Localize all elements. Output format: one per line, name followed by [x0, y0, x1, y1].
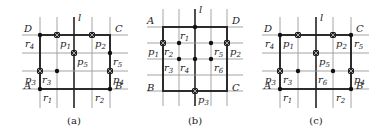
corner-C: C	[232, 82, 240, 93]
figure: lDCABp1p2p5p3p4r4r5r3r1r2(a)lADBCp1p2p3r…	[0, 0, 387, 135]
corner-B: B	[146, 82, 154, 93]
corner-C: C	[115, 23, 123, 34]
point-r2-label: r2	[336, 92, 346, 105]
point-r1-marker	[278, 87, 282, 91]
point-r1-label: r1	[180, 30, 189, 43]
point-p1-label: p1	[283, 38, 294, 51]
point-p3-label: p3	[198, 94, 209, 107]
line-l-label: l	[320, 12, 323, 23]
point-r6-marker	[331, 69, 335, 73]
point-r4-marker	[193, 57, 197, 61]
point-r3-marker	[55, 69, 59, 73]
corner-D: D	[231, 15, 240, 26]
point-r5-marker	[108, 51, 112, 55]
point-r6-marker	[209, 57, 213, 61]
panel-b: lADBCp1p2p3r1r2r5r3r4r6(b)	[146, 4, 243, 126]
point-p2-label: p2	[230, 46, 241, 59]
point-r1-marker	[38, 87, 42, 91]
point-r3-marker	[296, 69, 300, 73]
panel-caption: (c)	[309, 115, 323, 126]
point-p2-label: p2	[95, 38, 106, 51]
point-r1-marker	[193, 25, 197, 29]
point-r6-label: r6	[214, 62, 224, 75]
point-r4-marker	[278, 33, 282, 37]
point-r2-label: r2	[95, 92, 105, 105]
line-l-label: l	[199, 4, 202, 15]
point-p5-label: p5	[319, 56, 330, 69]
point-r5-marker	[349, 33, 353, 37]
point-r2-label: r2	[164, 46, 174, 59]
point-p1-label: p1	[148, 46, 159, 59]
panel-c: lDCABp1p2p5p3p4r4r5r3r6r1r2(c)	[262, 12, 369, 126]
point-r4-label: r4	[180, 62, 189, 75]
point-r3-marker	[177, 57, 181, 61]
point-r5-label: r5	[113, 56, 123, 69]
point-p1-label: p1	[60, 38, 71, 51]
point-r5-label: r5	[214, 46, 224, 59]
line-l-label: l	[78, 12, 81, 23]
panel-a: lDCABp1p2p5p3p4r4r5r3r1r2(a)	[22, 12, 128, 126]
point-r5-marker	[209, 41, 213, 45]
point-r4-label: r4	[265, 38, 274, 51]
panel-caption: (b)	[188, 115, 202, 126]
point-r6-label: r6	[318, 74, 328, 87]
point-r3-label: r3	[283, 74, 293, 87]
point-r4-marker	[38, 33, 42, 37]
point-r2-marker	[349, 87, 353, 91]
point-r5-label: r5	[354, 38, 364, 51]
point-r3-label: r3	[164, 62, 174, 75]
point-r3-label: r3	[42, 74, 52, 87]
point-r1-label: r1	[283, 92, 292, 105]
panel-caption: (a)	[67, 115, 81, 126]
point-p2-label: p2	[336, 38, 347, 51]
corner-A: A	[146, 15, 154, 26]
corner-D: D	[263, 23, 272, 34]
corner-C: C	[356, 23, 364, 34]
point-r2-marker	[108, 87, 112, 91]
point-r1-label: r1	[43, 92, 52, 105]
point-r4-label: r4	[25, 38, 34, 51]
corner-D: D	[23, 23, 32, 34]
point-p5-label: p5	[77, 56, 88, 69]
point-r2-marker	[177, 41, 181, 45]
